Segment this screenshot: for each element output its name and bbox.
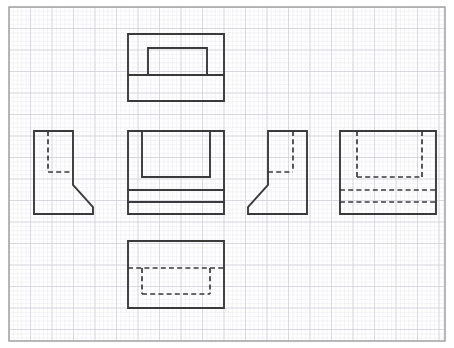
- grid-minor: [9, 7, 445, 341]
- left-side-view: [34, 131, 93, 214]
- right-side-view: [248, 131, 307, 214]
- grid-layer: [9, 7, 445, 341]
- drawing-sheet: [0, 0, 454, 348]
- drawing-canvas: [0, 0, 454, 348]
- front-view: [128, 131, 224, 214]
- left-side-view-profile-outline: [34, 131, 93, 214]
- front-view-inner-inverted-u: [142, 131, 210, 177]
